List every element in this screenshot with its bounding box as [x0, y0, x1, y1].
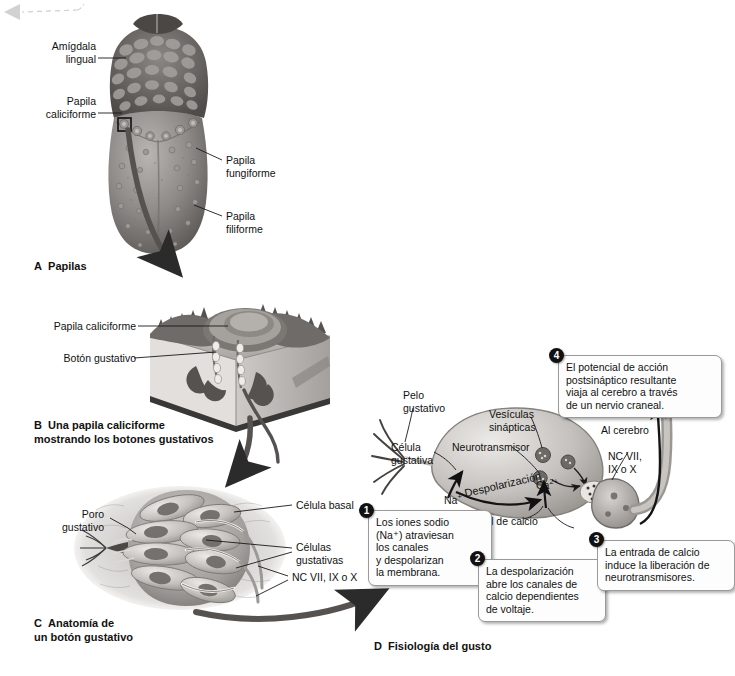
panel-d-letter: D	[374, 640, 382, 652]
label-papila-fungiforme: Papila fungiforme	[226, 154, 276, 179]
calcium-charge: 2+	[549, 477, 558, 486]
panel-d-caption-text: Fisiología del gusto	[388, 640, 491, 652]
step-badge-4: 4	[549, 348, 564, 363]
step-badge-2: 2	[470, 551, 485, 566]
panel-c-letter: C	[34, 617, 42, 629]
panel-c-caption-text: Anatomía de un botón gustativo	[34, 617, 133, 643]
panel-c-caption: C Anatomía de un botón gustativo	[34, 617, 133, 644]
sodium-symbol: Na	[444, 494, 457, 506]
panel-b-letter: B	[34, 419, 42, 431]
panel-a-caption: A Papilas	[34, 260, 87, 274]
panel-b-caption-text: Una papila caliciforme mostrando los bot…	[34, 419, 214, 445]
panel-c-taste-bud-illustration	[74, 486, 286, 610]
label-papila-caliciforme-b: Papila caliciforme	[38, 320, 136, 333]
panel-b-caption: B Una papila caliciforme mostrando los b…	[34, 419, 214, 446]
label-al-cerebro: Al cerebro	[601, 424, 649, 437]
page-corner-marker	[4, 4, 84, 20]
label-poro-gustativo: Poro gustativo	[32, 508, 104, 533]
label-neurotransmisor: Neurotransmisor	[452, 441, 530, 454]
calcium-symbol: Ca	[536, 479, 549, 491]
label-nervios-craneales-d: NC VII, IX o X	[608, 450, 642, 475]
label-nervios-craneales-c: NC VII, IX o X	[292, 571, 357, 584]
callout-step-3: La entrada de calcio induce la liberació…	[597, 540, 735, 591]
callout-step-1: Los iones sodio (Na⁺) atraviesan los can…	[368, 510, 492, 586]
label-pelo-gustativo: Pelo gustativo	[403, 389, 445, 414]
callout-step-4: El potencial de acción postsináptico res…	[558, 355, 722, 418]
panel-a-letter: A	[34, 260, 42, 272]
label-celulas-gustativas: Células gustativas	[296, 541, 343, 566]
step-badge-3: 3	[589, 532, 604, 547]
label-papila-caliciforme-a: Papila caliciforme	[28, 95, 96, 120]
panel-a-caption-text: Papilas	[48, 260, 87, 272]
label-papila-filiforme: Papila filiforme	[226, 210, 263, 235]
label-vesiculas-sinapticas: Vesículas sinápticas	[489, 408, 536, 433]
panel-a-tongue-illustration	[108, 14, 208, 254]
panel-d-caption: D Fisiología del gusto	[374, 640, 491, 654]
label-boton-gustativo: Botón gustativo	[48, 352, 136, 365]
label-sodium-ion: Na+	[444, 492, 462, 506]
step-badge-1: 1	[359, 503, 374, 518]
label-amigdala-lingual: Amígdala lingual	[28, 40, 96, 65]
label-celula-basal: Célula basal	[296, 499, 354, 512]
label-calcium-ion: Ca2+	[536, 477, 558, 491]
callout-step-2: La despolarización abre los canales de c…	[478, 559, 606, 622]
label-celula-gustativa: Célula gustativa	[391, 441, 433, 466]
sodium-charge: +	[457, 492, 461, 501]
